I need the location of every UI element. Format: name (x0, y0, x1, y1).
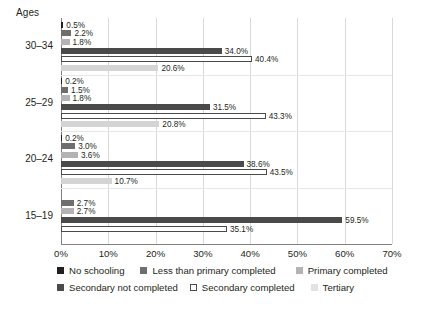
bar (61, 48, 222, 54)
legend-item[interactable]: No schooling (57, 266, 124, 276)
x-tick-label: 20% (146, 248, 165, 259)
legend-item[interactable]: Tertiary (311, 283, 354, 293)
y-axis-category-label: 25–29 (25, 97, 53, 108)
bar (61, 87, 68, 93)
bar-row: 20.8% (61, 121, 392, 127)
bar-group: 15–192.7%2.7%59.5%35.1% (61, 188, 392, 245)
legend-item[interactable]: Secondary completed (190, 283, 295, 293)
bar-row: 0.5% (61, 22, 392, 28)
bar-value-label: 2.7% (74, 207, 96, 216)
x-tick-label: 30% (193, 248, 212, 259)
legend-label: Secondary not completed (69, 283, 178, 293)
bar-group: 20–240.2%3.0%3.6%38.6%43.5%10.7% (61, 131, 392, 188)
legend-swatch (190, 284, 197, 291)
chart-legend: No schoolingLess than primary completedP… (57, 262, 437, 296)
bar-value-label: 40.4% (252, 55, 278, 64)
bar-row: 3.6% (61, 152, 392, 158)
bar (61, 113, 266, 119)
bar-row: 10.7% (61, 178, 392, 184)
bar-row: 2.7% (61, 200, 392, 206)
legend-label: Less than primary completed (152, 266, 275, 276)
bar-row: 35.1% (61, 226, 392, 232)
bar-row: 2.7% (61, 208, 392, 214)
x-tick-label: 60% (335, 248, 354, 259)
legend-row-2: Secondary not completedSecondary complet… (57, 279, 437, 296)
bar (61, 39, 70, 45)
bar-row: 0.2% (61, 78, 392, 84)
bar (61, 30, 71, 36)
bar-row: 43.5% (61, 169, 392, 175)
y-axis-category-label: 20–24 (25, 153, 53, 164)
x-tick-label: 50% (288, 248, 307, 259)
legend-swatch (57, 284, 64, 291)
x-axis-line (61, 244, 392, 245)
legend-item[interactable]: Less than primary completed (140, 266, 275, 276)
bar-value-label: 20.6% (158, 63, 184, 72)
bar (61, 65, 158, 71)
legend-item[interactable]: Primary completed (296, 266, 388, 276)
bar (61, 121, 159, 127)
legend-swatch (140, 267, 147, 274)
bar-value-label: 3.6% (78, 150, 100, 159)
bar (61, 104, 210, 110)
bar-value-label: 35.1% (227, 224, 253, 233)
plot-area: 30–340.5%2.2%1.8%34.0%40.4%20.6%25–290.2… (61, 18, 392, 244)
bar-row: 1.8% (61, 39, 392, 45)
legend-swatch (57, 267, 64, 274)
bar-row: 31.5% (61, 104, 392, 110)
bar-row (61, 234, 392, 240)
bar-row: 3.0% (61, 143, 392, 149)
bar-value-label: 1.8% (70, 37, 92, 46)
x-tick-label: 40% (241, 248, 260, 259)
bar-row: 34.0% (61, 48, 392, 54)
bar (61, 161, 244, 167)
bar-row: 43.3% (61, 113, 392, 119)
bar (61, 217, 342, 223)
bar (61, 95, 70, 101)
legend-label: Tertiary (323, 283, 354, 293)
bar-row: 2.2% (61, 30, 392, 36)
legend-label: Secondary completed (202, 283, 295, 293)
bar-group: 25–290.2%1.5%1.8%31.5%43.3%20.8% (61, 75, 392, 132)
bar-value-label: 59.5% (342, 216, 368, 225)
bar (61, 200, 74, 206)
bar (61, 56, 252, 62)
bar-row: 38.6% (61, 161, 392, 167)
x-tick-label: 10% (99, 248, 118, 259)
bar-value-label: 10.7% (112, 176, 138, 185)
bar-group: 30–340.5%2.2%1.8%34.0%40.4%20.6% (61, 18, 392, 75)
x-tick-label: 0% (54, 248, 68, 259)
gridline (392, 18, 393, 244)
legend-row-1: No schoolingLess than primary completedP… (57, 262, 437, 279)
bar-value-label: 43.3% (266, 111, 292, 120)
bar-row: 20.6% (61, 65, 392, 71)
bar-row: 59.5% (61, 217, 392, 223)
y-axis-title: Ages (16, 7, 39, 18)
legend-label: No schooling (69, 266, 124, 276)
bar (61, 208, 74, 214)
bar (61, 178, 112, 184)
bar-value-label: 43.5% (267, 168, 293, 177)
x-tick-label: 70% (382, 248, 401, 259)
y-axis-category-label: 15–19 (25, 210, 53, 221)
bar (61, 152, 78, 158)
bar-row: 40.4% (61, 56, 392, 62)
bar-chart: Ages 30–340.5%2.2%1.8%34.0%40.4%20.6%25–… (0, 0, 440, 314)
bar-row: 1.8% (61, 95, 392, 101)
bar (61, 143, 75, 149)
bar-value-label: 31.5% (210, 103, 236, 112)
bar (61, 169, 267, 175)
legend-item[interactable]: Secondary not completed (57, 283, 178, 293)
bar-value-label: 1.8% (70, 94, 92, 103)
legend-swatch (311, 284, 318, 291)
bar-value-label: 20.8% (159, 120, 185, 129)
bar-row (61, 191, 392, 197)
bar (61, 226, 227, 232)
y-axis-category-label: 30–34 (25, 40, 53, 51)
bar-value-label: 34.0% (222, 46, 248, 55)
legend-label: Primary completed (308, 266, 388, 276)
legend-swatch (296, 267, 303, 274)
bar-row: 0.2% (61, 135, 392, 141)
bar-row: 1.5% (61, 87, 392, 93)
